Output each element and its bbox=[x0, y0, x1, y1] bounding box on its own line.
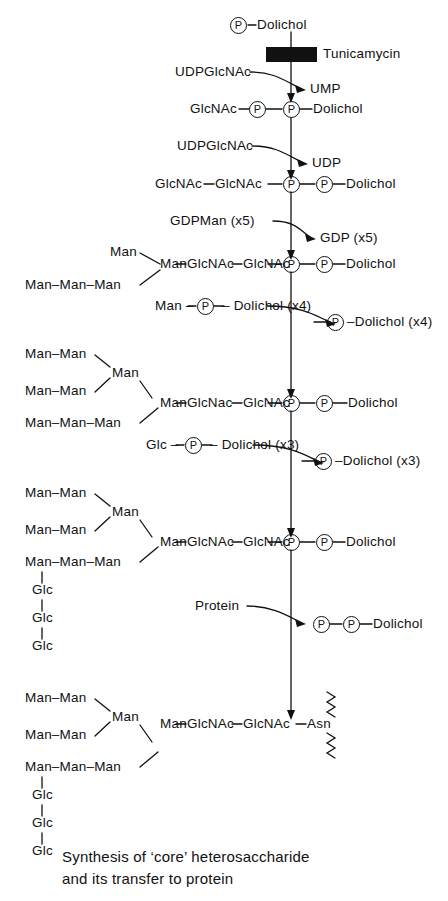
glcnac-label-r7-a: GlcNAc bbox=[187, 717, 234, 731]
udp-label: UDP bbox=[312, 156, 341, 170]
man-p-dolichol-x4-prefix: Man – bbox=[155, 299, 194, 313]
reaction-arrowhead-2 bbox=[297, 159, 308, 167]
dolichol-label-byproduct: Dolichol bbox=[373, 617, 423, 631]
phosphate-label: P bbox=[320, 456, 327, 467]
phosphate-circle: P bbox=[283, 176, 300, 193]
protein-backbone-zigzag-lower bbox=[327, 733, 335, 758]
branch-r6-b1 bbox=[95, 494, 110, 506]
phosphate-label: P bbox=[288, 259, 295, 270]
glcnac-label-r3-a: GlcNAc bbox=[155, 177, 202, 191]
branch-r7-b3 bbox=[140, 752, 158, 767]
man-branch-node-r6: Man bbox=[112, 505, 139, 519]
reaction-arrowhead-6 bbox=[295, 619, 306, 627]
p-dolichol-x4-suffix: –Dolichol (x4) bbox=[347, 315, 432, 329]
man-man-man-branch-r7: Man–Man–Man bbox=[25, 760, 121, 774]
reaction-arrow-1 bbox=[250, 72, 300, 88]
glc-label-r6-2: Glc bbox=[32, 611, 53, 625]
phosphate-circle: P bbox=[343, 616, 360, 633]
dolichol-label-r3: Dolichol bbox=[346, 177, 396, 191]
phosphate-label: P bbox=[288, 104, 295, 115]
man-branch-r4-lower: Man–Man–Man bbox=[25, 278, 121, 292]
phosphate-label: P bbox=[321, 537, 328, 548]
phosphate-label: P bbox=[288, 537, 295, 548]
protein-backbone-zigzag-upper bbox=[327, 692, 335, 717]
phosphate-label: P bbox=[318, 619, 325, 630]
phosphate-label: P bbox=[254, 104, 261, 115]
branch-r6-b3 bbox=[140, 547, 158, 562]
man-man-branch-r6-2: Man–Man bbox=[25, 523, 86, 537]
phosphate-label: P bbox=[288, 179, 295, 190]
phosphate-label: P bbox=[235, 20, 242, 31]
man-man-branch-r6-1: Man–Man bbox=[25, 486, 86, 500]
phosphate-circle: P bbox=[283, 534, 300, 551]
dolichol-label-r5: Dolichol bbox=[348, 396, 398, 410]
glc-p-dolichol-x3-suffix: – Dolichol (x3) bbox=[210, 438, 299, 452]
asn-label: Asn bbox=[307, 717, 331, 731]
phosphate-circle: P bbox=[283, 256, 300, 273]
phosphate-circle: P bbox=[230, 17, 247, 34]
tunicamycin-label: Tunicamycin bbox=[323, 47, 400, 61]
phosphate-circle: P bbox=[197, 298, 214, 315]
glc-label-r7-1: Glc bbox=[32, 788, 53, 802]
gdp-label: GDP (x5) bbox=[320, 231, 378, 245]
branch-r7-b2 bbox=[95, 722, 110, 736]
phosphate-circle: P bbox=[185, 437, 202, 454]
dolichol-label-r4: Dolichol bbox=[346, 257, 396, 271]
reaction-arrow-6 bbox=[247, 606, 300, 622]
glc-label-r7-3: Glc bbox=[32, 844, 53, 858]
branch-r5-node-down bbox=[140, 381, 152, 398]
man-label-r5: Man bbox=[160, 396, 187, 410]
branch-r4-upper bbox=[140, 253, 160, 264]
phosphate-label: P bbox=[321, 259, 328, 270]
man-man-branch-r5-1: Man–Man bbox=[25, 347, 86, 361]
phosphate-label: P bbox=[202, 301, 209, 312]
man-branch-r4-upper: Man bbox=[110, 245, 137, 259]
ump-label: UMP bbox=[310, 82, 341, 96]
tunicamycin-inhibitor-bar bbox=[266, 47, 317, 62]
phosphate-circle: P bbox=[316, 176, 333, 193]
phosphate-circle: P bbox=[316, 534, 333, 551]
branch-r5-b3 bbox=[140, 408, 158, 423]
phosphate-label: P bbox=[332, 317, 339, 328]
man-man-branch-r7-1: Man–Man bbox=[25, 691, 86, 705]
glcnac-label-r5-a: GlcNac bbox=[187, 396, 232, 410]
udpglcnac-label-1: UDPGlcNAc bbox=[175, 65, 251, 79]
reaction-arrow-2 bbox=[252, 146, 302, 162]
glc-label-r6-3: Glc bbox=[32, 639, 53, 653]
dolichol-label-r2: Dolichol bbox=[313, 102, 363, 116]
phosphate-circle: P bbox=[315, 453, 332, 470]
udpglcnac-label-2: UDPGlcNAc bbox=[177, 139, 253, 153]
glc-p-dolichol-x3-prefix: Glc – bbox=[146, 438, 179, 452]
phosphate-label: P bbox=[288, 398, 295, 409]
reaction-arrowhead-1 bbox=[295, 85, 306, 93]
phosphate-circle: P bbox=[316, 395, 333, 412]
phosphate-circle: P bbox=[316, 256, 333, 273]
glc-label-r6-1: Glc bbox=[32, 583, 53, 597]
p-dolichol-x3-suffix: –Dolichol (x3) bbox=[335, 454, 420, 468]
man-branch-node-r5: Man bbox=[112, 366, 139, 380]
protein-label: Protein bbox=[195, 599, 239, 613]
glcnac-label-r7-b: GlcNAc bbox=[243, 717, 290, 731]
branch-r7-node-down bbox=[140, 725, 152, 742]
branch-r6-node-down bbox=[140, 520, 152, 537]
man-man-man-branch-r6: Man–Man–Man bbox=[25, 555, 121, 569]
man-label-r4: Man bbox=[160, 257, 187, 271]
man-man-branch-r7-2: Man–Man bbox=[25, 728, 86, 742]
reaction-arrowhead-3 bbox=[305, 234, 316, 242]
glcnac-label-r4-a: GlcNAc bbox=[187, 257, 234, 271]
phosphate-label: P bbox=[321, 398, 328, 409]
branch-r5-b1 bbox=[95, 355, 110, 367]
glcnac-label-r6-a: GlcNAc bbox=[187, 535, 234, 549]
phosphate-circle: P bbox=[283, 101, 300, 118]
man-label-r7: Man bbox=[160, 717, 187, 731]
man-man-man-branch-r5: Man–Man–Man bbox=[25, 416, 121, 430]
man-man-branch-r5-2: Man–Man bbox=[25, 384, 86, 398]
man-label-r6: Man bbox=[160, 535, 187, 549]
dolichol-label-r6: Dolichol bbox=[346, 535, 396, 549]
glc-label-r7-2: Glc bbox=[32, 816, 53, 830]
phosphate-label: P bbox=[348, 619, 355, 630]
glcnac-label-r3-b: GlcNAc bbox=[215, 177, 262, 191]
man-branch-node-r7: Man bbox=[112, 710, 139, 724]
phosphate-label: P bbox=[190, 440, 197, 451]
dolichol-label-row1: Dolichol bbox=[257, 18, 307, 32]
